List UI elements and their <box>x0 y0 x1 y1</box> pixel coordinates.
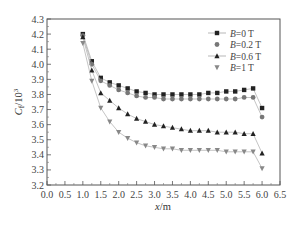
square-marker-icon <box>242 88 246 92</box>
circle-marker-icon <box>161 97 166 102</box>
circle-marker-icon <box>224 97 229 102</box>
x-tick-label: 0.0 <box>41 189 54 200</box>
legend-label: B=1 T <box>230 63 254 73</box>
triangle-up-marker-icon <box>116 105 121 110</box>
circle-marker-icon <box>143 95 148 100</box>
square-marker-icon <box>233 89 237 93</box>
x-tick-label: 3.5 <box>166 189 179 200</box>
triangle-up-marker-icon <box>134 116 139 121</box>
square-marker-icon <box>179 92 183 96</box>
square-marker-icon <box>161 92 165 96</box>
y-tick-label: 4.2 <box>32 29 45 40</box>
circle-marker-icon <box>134 94 139 99</box>
x-tick-label: 4.5 <box>202 189 215 200</box>
y-tick-label: 3.7 <box>32 104 45 115</box>
circle-marker-icon <box>233 97 238 102</box>
y-tick-label: 3.4 <box>32 149 45 160</box>
circle-marker-icon <box>215 97 220 102</box>
x-tick-label: 2.5 <box>130 189 143 200</box>
y-tick-label: 3.8 <box>32 89 45 100</box>
square-marker-icon <box>170 92 174 96</box>
legend-item: B=0.2 T <box>215 40 262 50</box>
x-axis: 0.00.51.01.52.02.53.03.54.04.55.05.56.06… <box>41 181 287 200</box>
triangle-down-marker-icon <box>98 106 103 111</box>
circle-marker-icon <box>98 78 103 83</box>
triangle-down-marker-icon <box>89 79 94 84</box>
legend: B=0 TB=0.2 TB=0.6 TB=1 T <box>208 29 261 74</box>
legend-item: B=0.6 T <box>208 52 261 62</box>
square-marker-icon <box>251 86 255 90</box>
triangle-up-marker-icon <box>98 90 103 95</box>
triangle-up-marker-icon <box>125 111 130 116</box>
circle-marker-icon <box>152 95 157 100</box>
x-tick-label: 6.5 <box>274 189 287 200</box>
x-tick-label: 6.0 <box>256 189 269 200</box>
x-tick-label: 1.5 <box>95 189 108 200</box>
x-tick-label: 1.0 <box>77 189 90 200</box>
y-tick-label: 4.1 <box>32 44 45 55</box>
circle-marker-icon <box>260 115 265 120</box>
circle-marker-icon <box>125 91 130 96</box>
triangle-up-marker-icon <box>107 98 112 103</box>
circle-marker-icon <box>215 42 220 47</box>
legend-label: B=0.6 T <box>230 52 261 62</box>
circle-marker-icon <box>107 83 112 88</box>
y-tick-label: 4.0 <box>32 59 45 70</box>
square-marker-icon <box>197 92 201 96</box>
triangle-down-marker-icon <box>259 166 264 171</box>
x-axis-title: x/m <box>154 201 171 212</box>
x-tick-label: 4.0 <box>184 189 197 200</box>
legend-label: B=0.2 T <box>230 40 261 50</box>
x-tick-label: 0.5 <box>59 189 72 200</box>
legend-item: B=0 T <box>208 29 254 39</box>
circle-marker-icon <box>251 95 256 100</box>
circle-marker-icon <box>179 97 184 102</box>
circle-marker-icon <box>188 97 193 102</box>
square-marker-icon <box>206 91 210 95</box>
square-marker-icon <box>188 92 192 96</box>
circle-marker-icon <box>206 97 211 102</box>
square-marker-icon <box>125 86 129 90</box>
y-tick-label: 3.6 <box>32 119 45 130</box>
triangle-down-marker-icon <box>214 65 219 70</box>
square-marker-icon <box>224 89 228 93</box>
line-chart: 0.00.51.01.52.02.53.03.54.04.55.05.56.06… <box>0 0 303 226</box>
x-tick-label: 5.5 <box>238 189 251 200</box>
square-marker-icon <box>215 31 219 35</box>
triangle-up-marker-icon <box>259 151 264 156</box>
square-marker-icon <box>134 89 138 93</box>
y-tick-label: 3.3 <box>32 164 45 175</box>
square-marker-icon <box>143 91 147 95</box>
square-marker-icon <box>215 91 219 95</box>
y-tick-label: 3.2 <box>32 180 45 191</box>
circle-marker-icon <box>116 88 121 93</box>
y-tick-label: 3.9 <box>32 74 45 85</box>
x-tick-label: 5.0 <box>220 189 233 200</box>
square-marker-icon <box>260 106 264 110</box>
x-tick-label: 3.0 <box>148 189 161 200</box>
y-tick-label: 4.3 <box>32 14 45 25</box>
square-marker-icon <box>116 83 120 87</box>
circle-marker-icon <box>170 97 175 102</box>
y-axis-title: Cf/103 <box>12 88 26 115</box>
circle-marker-icon <box>242 95 247 100</box>
triangle-down-marker-icon <box>125 136 130 141</box>
legend-item: B=1 T <box>214 63 254 73</box>
legend-label: B=0 T <box>230 29 254 39</box>
triangle-down-marker-icon <box>116 130 121 135</box>
y-axis: 3.23.33.43.53.63.73.83.94.04.14.24.3 <box>32 14 52 191</box>
y-tick-label: 3.5 <box>32 134 45 145</box>
x-tick-label: 2.0 <box>112 189 125 200</box>
circle-marker-icon <box>197 97 202 102</box>
